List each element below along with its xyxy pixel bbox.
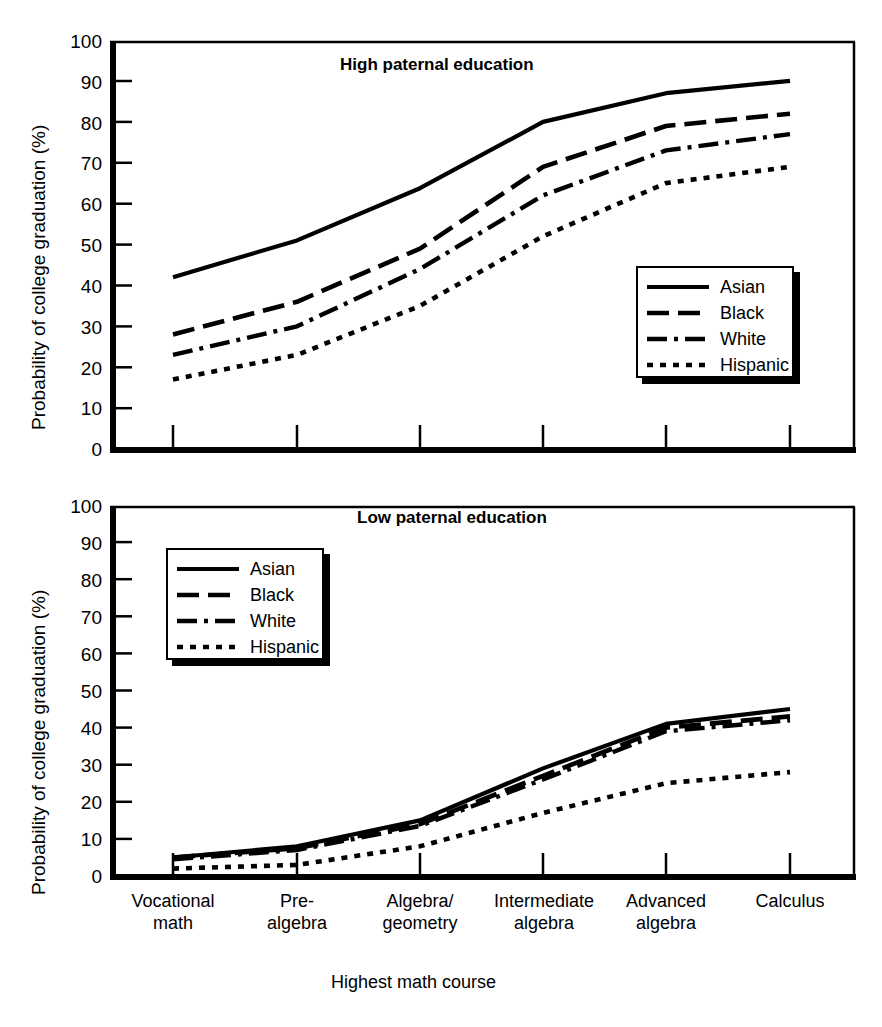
dashed-line-icon [176,588,240,602]
solid-line-icon [646,280,710,294]
top-ytick-70: 70 [58,153,102,175]
dash-dot-line-icon [176,614,240,628]
figure-root: Probability of college graduation (%) 10… [0,0,882,1027]
bottom-legend: Asian Black White Hispanic [166,548,324,660]
top-x-ticks [173,425,790,447]
bottom-ytick-60: 60 [58,644,102,666]
bottom-ytick-80: 80 [58,570,102,592]
solid-line-icon [176,562,240,576]
bottom-ytick-0: 0 [58,866,102,888]
xtick-line2: algebra [606,912,726,934]
bottom-ytick-90: 90 [58,533,102,555]
top-ytick-60: 60 [58,194,102,216]
xtick-line1: Pre- [237,890,357,912]
top-legend-item-black: Black [646,300,782,326]
bottom-legend-label-black: Black [250,585,294,606]
xtick-label-calculus: Calculus [730,890,850,912]
top-ytick-90: 90 [58,72,102,94]
bottom-ytick-70: 70 [58,607,102,629]
xtick-label-vocational-math: Vocational math [113,890,233,934]
bottom-legend-label-asian: Asian [250,559,295,580]
bottom-series-black [173,716,790,857]
top-legend-item-hispanic: Hispanic [646,352,782,378]
xtick-label-advanced-algebra: Advanced algebra [606,890,726,934]
top-y-ticks [116,81,132,408]
top-ytick-50: 50 [58,235,102,257]
top-ytick-10: 10 [58,398,102,420]
xtick-label-algebra-geometry: Algebra/ geometry [360,890,480,934]
top-legend-label-hispanic: Hispanic [720,355,789,376]
top-legend-label-black: Black [720,303,764,324]
top-ytick-100: 100 [58,31,102,53]
dotted-line-icon [176,640,240,654]
top-ytick-30: 30 [58,317,102,339]
bottom-legend-label-hispanic: Hispanic [250,637,319,658]
bottom-ytick-10: 10 [58,829,102,851]
dashed-line-icon [646,306,710,320]
xtick-line1: Intermediate [481,890,607,912]
bottom-series-asian [173,709,790,858]
top-chart-svg [110,40,858,460]
top-ytick-40: 40 [58,276,102,298]
bottom-x-ticks [173,853,790,874]
bottom-ytick-20: 20 [58,792,102,814]
top-legend-item-asian: Asian [646,274,782,300]
bottom-legend-item-hispanic: Hispanic [176,634,312,660]
top-ytick-80: 80 [58,113,102,135]
top-legend: Asian Black White Hispanic [636,266,794,378]
bottom-ytick-30: 30 [58,755,102,777]
xtick-line2: algebra [481,912,607,934]
top-ytick-20: 20 [58,358,102,380]
bottom-legend-item-white: White [176,608,312,634]
top-y-axis-title: Probability of college graduation (%) [28,125,50,430]
bottom-ytick-40: 40 [58,718,102,740]
xtick-label-intermediate-algebra: Intermediate algebra [481,890,607,934]
top-legend-label-white: White [720,329,766,350]
bottom-ytick-100: 100 [58,496,102,518]
top-series-asian [173,81,790,277]
bottom-ytick-50: 50 [58,681,102,703]
top-legend-label-asian: Asian [720,277,765,298]
bottom-legend-label-white: White [250,611,296,632]
xtick-line1: Algebra/ [360,890,480,912]
bottom-series-white [173,720,790,859]
xtick-line1: Vocational [113,890,233,912]
top-legend-item-white: White [646,326,782,352]
top-plot-area [110,40,858,460]
bottom-y-axis-title: Probability of college graduation (%) [28,590,50,895]
bottom-legend-item-asian: Asian [176,556,312,582]
xtick-label-pre-algebra: Pre- algebra [237,890,357,934]
top-ytick-0: 0 [58,439,102,461]
xtick-line2: algebra [237,912,357,934]
bottom-y-ticks [116,542,132,839]
xtick-line1: Advanced [606,890,726,912]
dash-dot-line-icon [646,332,710,346]
x-axis-title: Highest math course [331,972,496,993]
bottom-legend-item-black: Black [176,582,312,608]
xtick-line2: geometry [360,912,480,934]
dotted-line-icon [646,358,710,372]
xtick-line2: math [113,912,233,934]
xtick-line1: Calculus [730,890,850,912]
